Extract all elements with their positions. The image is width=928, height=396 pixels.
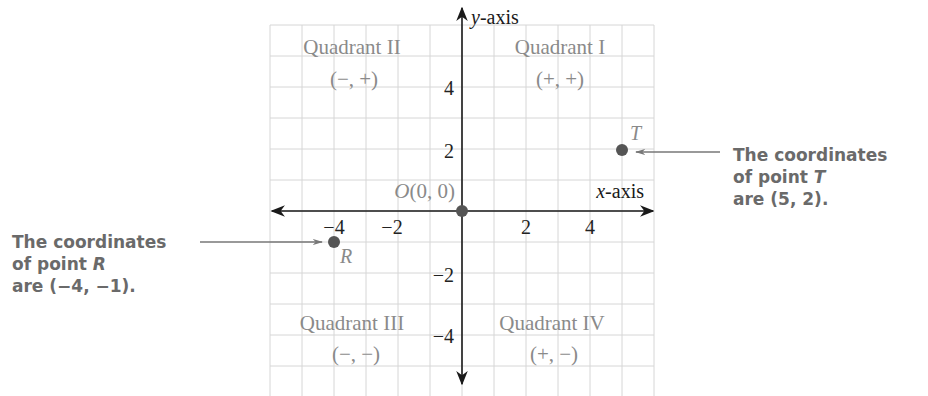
point-R bbox=[328, 236, 340, 248]
callout-point-R: The coordinates of point R are (−4, −1). bbox=[12, 231, 166, 297]
svg-text:Quadrant IV: Quadrant IV bbox=[499, 311, 605, 335]
x-tick-label: 4 bbox=[585, 216, 595, 238]
quadrant-IV-label: Quadrant IV (+, −) bbox=[499, 311, 605, 366]
svg-text:(−, +): (−, +) bbox=[330, 67, 378, 91]
quadrant-III-label: Quadrant III (−, −) bbox=[300, 311, 404, 366]
origin-point bbox=[456, 205, 468, 217]
x-axis-label: x-axis bbox=[595, 180, 644, 202]
origin-label: O(0, 0) bbox=[394, 179, 455, 203]
callout-R-line2: of point R bbox=[12, 253, 166, 275]
callout-T-line2: of point T bbox=[733, 166, 887, 188]
callout-T-line1: The coordinates bbox=[733, 144, 887, 166]
point-R-label: R bbox=[339, 245, 352, 267]
y-tick-label: 4 bbox=[444, 77, 454, 99]
callout-R-line3: are (−4, −1). bbox=[12, 275, 166, 297]
quadrant-I-label: Quadrant I (+, +) bbox=[515, 35, 605, 91]
callout-R-line1: The coordinates bbox=[12, 231, 166, 253]
svg-text:(−, −): (−, −) bbox=[332, 342, 380, 366]
x-tick-label: −2 bbox=[381, 216, 402, 238]
x-tick-label: −4 bbox=[323, 216, 344, 238]
quadrant-II-label: Quadrant II (−, +) bbox=[303, 35, 400, 91]
svg-text:(+, +): (+, +) bbox=[536, 67, 584, 91]
y-tick-label: −4 bbox=[433, 325, 454, 347]
x-tick-label: 2 bbox=[521, 216, 531, 238]
y-axis-label: y-axis bbox=[469, 6, 519, 29]
svg-text:(+, −): (+, −) bbox=[530, 342, 578, 366]
svg-text:Quadrant II: Quadrant II bbox=[303, 35, 400, 59]
svg-text:Quadrant I: Quadrant I bbox=[515, 35, 605, 59]
svg-text:Quadrant III: Quadrant III bbox=[300, 311, 404, 335]
point-T bbox=[616, 144, 628, 156]
y-tick-label: −2 bbox=[433, 264, 454, 286]
y-tick-label: 2 bbox=[444, 140, 454, 162]
point-T-label: T bbox=[630, 122, 643, 144]
callout-T-line3: are (5, 2). bbox=[733, 188, 887, 210]
callout-point-T: The coordinates of point T are (5, 2). bbox=[733, 144, 887, 210]
